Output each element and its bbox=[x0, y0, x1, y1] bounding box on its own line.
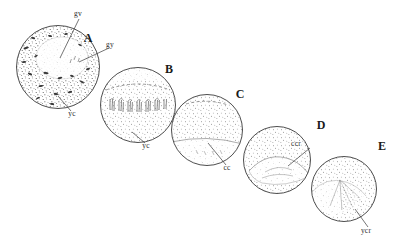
label-cc: cc bbox=[223, 163, 231, 172]
label-yc-b: yc bbox=[142, 141, 150, 150]
developmental-stages-figure: A B C D E gv gy yc yc cc ccr ycr bbox=[0, 0, 400, 250]
stage-letter-b: B bbox=[165, 62, 173, 76]
stage-letter-a: A bbox=[84, 31, 93, 45]
label-gv: gv bbox=[74, 9, 82, 18]
label-yc-a: yc bbox=[68, 109, 76, 118]
label-gy: gy bbox=[106, 40, 114, 49]
stage-cell-d bbox=[244, 127, 311, 194]
stage-letter-e: E bbox=[378, 139, 386, 153]
label-ccr: ccr bbox=[291, 139, 301, 148]
label-ycr: ycr bbox=[361, 226, 371, 235]
stage-letter-c: C bbox=[236, 87, 245, 101]
figure-canvas: A B C D E gv gy yc yc cc ccr ycr bbox=[0, 0, 400, 250]
stage-cell-c bbox=[171, 95, 243, 171]
stage-letter-d: D bbox=[317, 118, 326, 132]
stage-cell-e bbox=[312, 157, 377, 222]
stage-cell-b bbox=[100, 67, 176, 143]
